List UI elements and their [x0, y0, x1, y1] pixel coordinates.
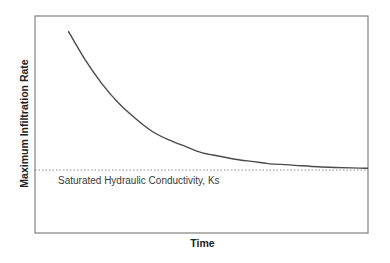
plot-frame — [35, 16, 368, 233]
y-axis-label: Maximum Infiltration Rate — [18, 59, 30, 188]
infiltration-curve — [68, 31, 368, 168]
ks-annotation: Saturated Hydraulic Conductivity, Ks — [58, 175, 220, 186]
x-axis-label: Time — [190, 237, 214, 249]
infiltration-chart: Saturated Hydraulic Conductivity, Ks Tim… — [0, 0, 390, 263]
